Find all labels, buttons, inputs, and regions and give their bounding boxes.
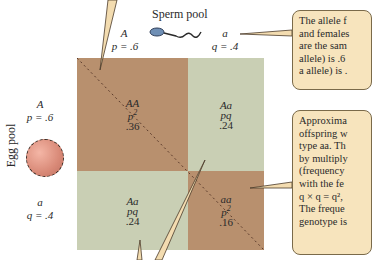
top-callout-leader [240,30,292,36]
callout-aa-frequency: Approxima offspring w type aa. Th by mul… [292,110,372,255]
callout-line: are the sam [299,40,365,53]
callout-line: with the fe [299,178,365,191]
callout-line: a allele) is . [299,65,365,78]
bottom-callout-leader [250,182,292,188]
callout-line: The freque [299,203,365,216]
callout-allele-frequency: The allele f and females are the sam all… [292,10,372,90]
top-pointer [100,0,117,70]
callout-line: q × q = q², [299,191,365,204]
callout-line: The allele f [299,15,365,28]
bottom-pointer-left [137,240,142,260]
callout-line: Approxima [299,115,365,128]
callout-line: allele) is .6 [299,53,365,66]
callout-line: by multiply [299,153,365,166]
diagonal-dotted-line [77,58,264,250]
callout-line: offspring w [299,128,365,141]
callout-line: (frequency [299,165,365,178]
bottom-pointer-right [155,160,205,260]
callout-line: genotype is [299,216,365,229]
callout-line: type aa. Th [299,140,365,153]
callout-line: and females [299,28,365,41]
